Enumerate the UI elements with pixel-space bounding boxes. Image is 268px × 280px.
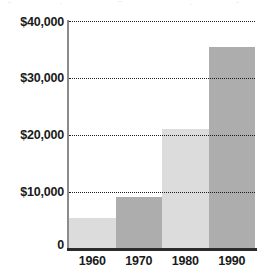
plot-area (69, 21, 255, 249)
y-tick-label-0: 0 (2, 239, 64, 252)
gridline-40000 (69, 21, 255, 22)
gridline-10000 (69, 192, 255, 193)
bar-1980 (162, 129, 209, 249)
gridline-20000 (69, 135, 255, 136)
y-axis-tick-labels: $40,000 $30,000 $20,000 $10,000 0 (0, 0, 64, 280)
x-axis-line (67, 248, 257, 251)
x-tick-label-1970: 1970 (116, 255, 163, 275)
bar-1990 (209, 47, 256, 249)
x-tick-label-1960: 1960 (69, 255, 116, 275)
x-tick-label-1990: 1990 (209, 255, 256, 275)
y-tick-label-30000: $30,000 (2, 72, 64, 85)
y-tick-label-10000: $10,000 (2, 186, 64, 199)
bar-1970 (116, 197, 163, 249)
y-tick-label-20000: $20,000 (2, 129, 64, 142)
x-axis-tick-labels: 1960 1970 1980 1990 (69, 255, 255, 275)
x-tick-label-1980: 1980 (162, 255, 209, 275)
bar-chart: $40,000 $30,000 $20,000 $10,000 0 1960 1… (0, 0, 268, 280)
gridline-30000 (69, 78, 255, 79)
y-tick-label-40000: $40,000 (2, 15, 64, 28)
bar-1960 (69, 218, 116, 249)
